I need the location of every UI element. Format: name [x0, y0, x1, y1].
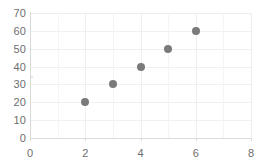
x-tick-label: 0 — [17, 148, 43, 159]
x-axis-tick-labels: 02468 — [0, 0, 260, 164]
x-tick-mark — [85, 138, 86, 141]
x-tick-mark — [251, 138, 252, 141]
x-tick-label: 6 — [183, 148, 209, 159]
x-tick-mark — [196, 138, 197, 141]
x-tick-mark — [30, 138, 31, 141]
x-tick-mark — [141, 138, 142, 141]
x-tick-label: 4 — [128, 148, 154, 159]
scatter-chart: 010203040506070 02468 — [0, 0, 260, 164]
x-tick-label: 8 — [238, 148, 260, 159]
x-tick-label: 2 — [72, 148, 98, 159]
